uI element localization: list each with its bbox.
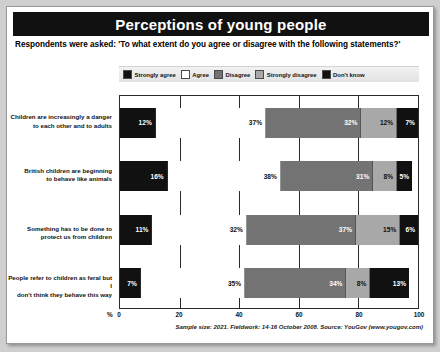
legend-swatch-icon xyxy=(322,70,331,79)
chart-legend: Strongly agreeAgreeDisagreeStrongly disa… xyxy=(119,66,419,82)
legend-item: Strongly agree xyxy=(123,70,176,79)
chart-card: Perceptions of young people Respondents … xyxy=(6,6,434,344)
category-label-list: Children are increasingly a dangerto eac… xyxy=(7,95,117,309)
bar-row: 12%37%32%12%7% xyxy=(120,108,418,138)
bar-value-label: 16% xyxy=(150,173,163,180)
bar-value-label: 31% xyxy=(356,173,369,180)
axis-unit-label: % xyxy=(107,311,113,318)
bar-segment: 5% xyxy=(397,161,412,191)
bar-segment: 8% xyxy=(346,268,370,298)
category-label: Something has to be done to protect us f… xyxy=(8,225,112,242)
bar-value-label: 38% xyxy=(264,173,277,180)
bar-segment: 11% xyxy=(120,215,152,245)
chart-subtitle: Respondents were asked: 'To what extent … xyxy=(15,40,434,49)
bar-value-label: 37% xyxy=(249,119,262,126)
bar-value-label: 34% xyxy=(329,280,342,287)
bar-segment: 37% xyxy=(156,108,266,138)
legend-label: Strongly agree xyxy=(135,72,176,78)
legend-label: Don't know xyxy=(333,72,365,78)
bar-value-label: 7% xyxy=(127,280,137,287)
bar-segment: 34% xyxy=(245,268,346,298)
bar-segment: 35% xyxy=(141,268,245,298)
bar-value-label: 32% xyxy=(344,119,357,126)
axis-tick-label: 60 xyxy=(295,311,302,318)
legend-item: Disagree xyxy=(214,70,250,79)
bar-segment: 12% xyxy=(361,108,397,138)
bar-segment: 13% xyxy=(370,268,409,298)
category-label-line: Something has to be done to protect us f… xyxy=(8,225,112,242)
bar-value-label: 35% xyxy=(228,280,241,287)
bar-row: 7%35%34%8%13% xyxy=(120,268,418,298)
legend-label: Disagree xyxy=(225,72,250,78)
axis-tick-label: 80 xyxy=(355,311,362,318)
legend-swatch-icon xyxy=(255,70,264,79)
bar-rows: 12%37%32%12%7%16%38%31%8%5%11%32%37%15%6… xyxy=(120,96,418,308)
bar-value-label: 12% xyxy=(139,119,152,126)
source-note: Sample size: 2021. Fieldwork: 14-16 Octo… xyxy=(175,324,423,330)
bar-segment: 38% xyxy=(168,161,281,191)
category-label-line: to each other and to adults xyxy=(8,122,112,130)
title-bar: Perceptions of young people xyxy=(13,12,429,36)
category-label: Children are increasingly a dangerto eac… xyxy=(8,113,112,130)
bar-segment: 37% xyxy=(247,215,356,245)
bar-value-label: 13% xyxy=(393,280,406,287)
bar-value-label: 12% xyxy=(380,119,393,126)
bar-segment: 7% xyxy=(120,268,141,298)
bar-value-label: 5% xyxy=(399,173,409,180)
bar-value-label: 7% xyxy=(405,119,415,126)
bar-value-label: 6% xyxy=(405,226,415,233)
bar-segment: 16% xyxy=(120,161,168,191)
legend-item: Don't know xyxy=(322,70,365,79)
bar-segment: 6% xyxy=(400,215,418,245)
bar-segment: 8% xyxy=(373,161,397,191)
category-label-line: don't think they behave this way xyxy=(8,291,112,299)
legend-item: Agree xyxy=(181,70,209,79)
bar-segment: 32% xyxy=(152,215,246,245)
axis-tick-label: 40 xyxy=(235,311,242,318)
bar-value-label: 37% xyxy=(339,226,352,233)
bar-value-label: 11% xyxy=(136,226,149,233)
legend-swatch-icon xyxy=(181,70,190,79)
category-label: People refer to children as feral but Id… xyxy=(8,274,112,299)
bar-segment: 31% xyxy=(281,161,373,191)
legend-swatch-icon xyxy=(123,70,132,79)
category-label-line: People refer to children as feral but I xyxy=(8,274,112,291)
bar-row: 16%38%31%8%5% xyxy=(120,161,418,191)
legend-label: Strongly disagree xyxy=(267,72,317,78)
bar-segment: 32% xyxy=(266,108,361,138)
bar-segment: 7% xyxy=(397,108,418,138)
legend-item: Strongly disagree xyxy=(255,70,316,79)
category-label-line: to behave like animals xyxy=(8,175,112,183)
plot-area: 12%37%32%12%7%16%38%31%8%5%11%32%37%15%6… xyxy=(119,95,419,309)
axis-tick-label: 20 xyxy=(175,311,182,318)
category-label: British children are beginningto behave … xyxy=(8,167,112,184)
bar-value-label: 8% xyxy=(357,280,367,287)
bar-value-label: 15% xyxy=(383,226,396,233)
page-title: Perceptions of young people xyxy=(13,12,429,36)
bar-value-label: 8% xyxy=(384,173,394,180)
chart-page: Perceptions of young people Respondents … xyxy=(0,0,440,352)
category-label-line: Children are increasingly a danger xyxy=(8,113,112,121)
axis-tick-label: 0 xyxy=(117,311,121,318)
bar-row: 11%32%37%15%6% xyxy=(120,215,418,245)
legend-label: Agree xyxy=(192,72,209,78)
legend-swatch-icon xyxy=(214,70,223,79)
x-axis: 020406080100 xyxy=(119,311,419,323)
bar-value-label: 32% xyxy=(230,226,243,233)
bar-segment: 15% xyxy=(356,215,400,245)
axis-tick-label: 100 xyxy=(414,311,425,318)
bar-segment: 12% xyxy=(120,108,156,138)
category-label-line: British children are beginning xyxy=(8,167,112,175)
